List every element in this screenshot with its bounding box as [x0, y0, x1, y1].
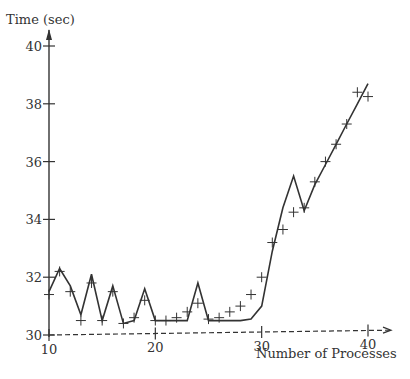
chart-container: 30323436384010203040	[0, 0, 410, 379]
plus-marker-icon	[204, 314, 214, 324]
plus-marker-icon	[225, 307, 235, 317]
y-tick-label-38: 38	[25, 97, 42, 112]
y-axis-arrow-icon	[46, 29, 52, 40]
plus-marker-icon	[193, 298, 203, 308]
plus-marker-icon	[278, 225, 288, 235]
y-tick-label-36: 36	[25, 155, 42, 170]
y-tick-label-32: 32	[25, 270, 42, 285]
y-tick-label-40: 40	[25, 39, 42, 54]
plus-marker-icon	[342, 119, 352, 129]
plus-marker-icon	[289, 207, 299, 217]
plus-marker-icon	[235, 301, 245, 311]
y-axis-label: Time (sec)	[6, 12, 75, 27]
plus-marker-icon	[257, 272, 267, 282]
x-tick-label-20: 20	[147, 340, 164, 355]
plus-marker-icon	[299, 203, 309, 213]
plus-marker-icon	[331, 139, 341, 149]
plus-marker-icon	[118, 318, 128, 328]
plus-marker-icon	[44, 290, 54, 300]
y-tick-label-34: 34	[25, 212, 42, 227]
y-tick-label-30: 30	[25, 328, 42, 343]
plus-marker-icon	[161, 316, 171, 326]
plus-marker-icon	[246, 290, 256, 300]
x-axis-label: Number of Processes	[256, 346, 397, 361]
x-axis-dashed-line	[49, 330, 390, 335]
plus-marker-icon	[150, 316, 160, 326]
line-chart-plot: 30323436384010203040	[0, 0, 410, 379]
plus-marker-icon	[363, 92, 373, 102]
plus-marker-icon	[76, 316, 86, 326]
x-tick-label-10: 10	[41, 342, 58, 357]
plus-marker-icon	[97, 316, 107, 326]
predicted-series-line	[49, 84, 368, 324]
